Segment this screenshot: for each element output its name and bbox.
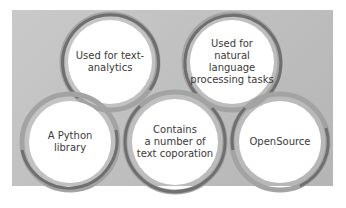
circle-rings	[0, 0, 346, 208]
node-label-bottom-center: Contains a number of text coporation	[133, 110, 217, 174]
node-text: Used for natural language processing tas…	[190, 38, 274, 86]
node-text: A Python library	[48, 130, 93, 154]
node-text: Contains a number of text coporation	[137, 124, 213, 160]
node-label-top-right: Used for natural language processing tas…	[190, 30, 274, 94]
node-text: OpenSource	[249, 136, 310, 148]
node-label-top-left: Used for text- analytics	[70, 30, 150, 94]
node-text: Used for text- analytics	[76, 50, 144, 74]
node-label-bottom-right: OpenSource	[240, 110, 320, 174]
node-label-bottom-left: A Python library	[30, 110, 110, 174]
